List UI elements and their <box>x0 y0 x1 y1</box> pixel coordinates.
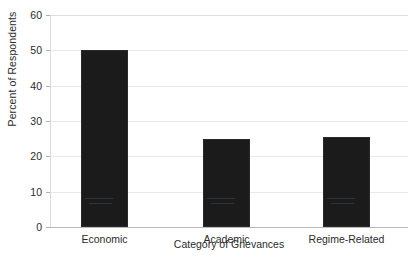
y-tick-label-50: 50 <box>2 44 42 56</box>
bar-texture-streak <box>327 198 355 199</box>
y-tick-label-60: 60 <box>2 9 42 21</box>
y-tick-label-20: 20 <box>2 150 42 162</box>
y-axis-line <box>50 15 51 227</box>
y-tick-label-0: 0 <box>2 221 42 233</box>
bar-chart: Percent of Respondents 60 50 40 30 20 10… <box>0 0 420 274</box>
bar-texture-streak <box>89 203 112 204</box>
bar-texture-streak <box>85 198 113 199</box>
bar-texture-streak <box>211 203 234 204</box>
x-axis-line <box>50 227 408 228</box>
bar-academic <box>203 139 250 227</box>
y-tick-label-40: 40 <box>2 80 42 92</box>
bar-regime-related <box>323 137 370 227</box>
bar-texture-streak <box>207 198 235 199</box>
plot-area: 60 50 40 30 20 10 0 Economic Academic Re… <box>50 15 408 227</box>
x-axis-title: Category of Grievances <box>50 238 408 250</box>
gridline-60 <box>50 15 408 16</box>
y-tick-label-30: 30 <box>2 115 42 127</box>
y-tick-label-10: 10 <box>2 186 42 198</box>
bar-economic <box>81 50 128 227</box>
bar-texture-streak <box>331 203 354 204</box>
